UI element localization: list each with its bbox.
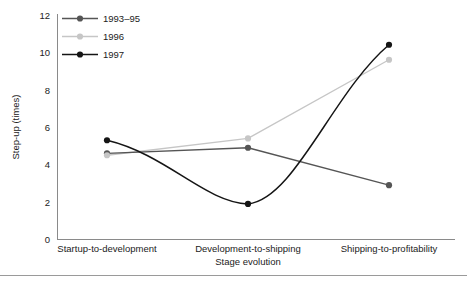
data-point-marker: [104, 137, 110, 143]
series-line-1993-95: [107, 148, 389, 185]
data-point-marker: [386, 182, 392, 188]
x-tick-labels: Startup-to-development Development-to-sh…: [57, 243, 437, 254]
data-point-marker: [386, 42, 392, 48]
axis-group: [58, 14, 456, 240]
x-axis-title: Stage evolution: [215, 256, 281, 267]
data-point-marker: [386, 57, 392, 63]
legend-marker-2: [77, 51, 83, 57]
y-tick-labels: 0 2 4 6 8 10 12: [39, 10, 50, 245]
y-tick-label-8: 8: [45, 85, 50, 96]
y-tick-label-4: 4: [45, 159, 50, 170]
y-tick-label-10: 10: [39, 47, 50, 58]
data-point-marker: [245, 135, 251, 141]
legend-label-0: 1993–95: [103, 13, 140, 24]
y-tick-label-12: 12: [39, 10, 50, 21]
y-tick-label-6: 6: [45, 122, 50, 133]
y-axis-title: Step-up (times): [10, 95, 21, 160]
x-category-label-2: Shipping-to-profitability: [341, 243, 438, 254]
data-point-marker: [245, 145, 251, 151]
legend-label-1: 1996: [103, 31, 124, 42]
series-markers: [104, 42, 392, 207]
x-category-label-1: Development-to-shipping: [195, 243, 301, 254]
chart-legend: 1993–9519961997: [62, 13, 140, 60]
legend-marker-1: [77, 33, 83, 39]
x-category-label-0: Startup-to-development: [57, 243, 157, 254]
legend-label-2: 1997: [103, 49, 124, 60]
legend-marker-0: [77, 15, 83, 21]
data-point-marker: [104, 152, 110, 158]
series-group: [107, 45, 389, 204]
data-point-marker: [245, 201, 251, 207]
series-line-1997: [107, 45, 389, 204]
chart-figure: 0 2 4 6 8 10 12 Step-up (times) Startup-…: [0, 0, 467, 282]
y-tick-label-0: 0: [45, 234, 50, 245]
y-tick-label-2: 2: [45, 197, 50, 208]
